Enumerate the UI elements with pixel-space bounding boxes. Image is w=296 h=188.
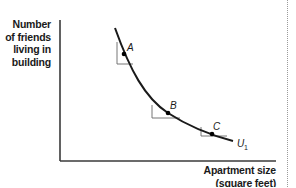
- indifference-curve-chart: A B C U 1: [0, 0, 296, 187]
- curve-label-subscript: 1: [244, 144, 248, 151]
- point-a: [122, 52, 127, 57]
- point-c: [210, 132, 215, 137]
- x-axis-label-line-2: (square feet): [204, 177, 276, 188]
- point-a-label: A: [126, 42, 134, 53]
- x-axis-label: Apartment size (square feet): [204, 164, 276, 187]
- point-c-label: C: [213, 121, 221, 132]
- point-b-label: B: [170, 100, 177, 111]
- x-axis-label-line-1: Apartment size: [204, 164, 276, 177]
- point-b: [166, 111, 171, 116]
